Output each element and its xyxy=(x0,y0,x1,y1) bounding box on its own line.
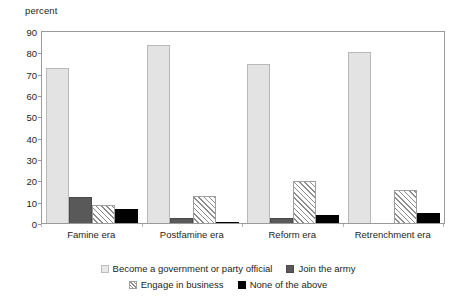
y-axis-tick-label: 30 xyxy=(26,155,37,166)
y-axis-tick-label: 70 xyxy=(26,69,37,80)
bar xyxy=(92,205,115,224)
legend-label-none-of-the-above: None of the above xyxy=(250,278,328,292)
bar xyxy=(193,196,216,224)
bar-chart: percent 9080706050403020100 Become a gov… xyxy=(0,0,456,306)
legend-swatch-icon-none-of-the-above xyxy=(238,281,246,289)
legend-item-engage-business: Engage in business xyxy=(129,278,224,292)
x-axis-tick-mark xyxy=(443,224,444,227)
x-axis-tick-mark xyxy=(343,224,344,227)
legend-swatch-icon-join-army xyxy=(286,265,294,273)
plot-area: 9080706050403020100 xyxy=(41,31,445,224)
bar-group xyxy=(344,32,445,224)
bar-group xyxy=(143,32,244,224)
bar-group xyxy=(243,32,344,224)
bar-group-bars xyxy=(42,32,143,224)
legend-swatch-icon-government-official xyxy=(101,265,109,273)
bar xyxy=(69,197,92,224)
y-axis-tick-label: 80 xyxy=(26,48,37,59)
bar xyxy=(46,68,69,224)
legend-row-2: Engage in business None of the above xyxy=(0,278,456,292)
y-axis-tick-label: 0 xyxy=(32,219,37,230)
legend-item-join-army: Join the army xyxy=(286,262,355,276)
bar xyxy=(348,52,371,224)
bar xyxy=(115,209,138,224)
bar xyxy=(147,45,170,224)
bar-group-bars xyxy=(243,32,344,224)
bar-group-bars xyxy=(143,32,244,224)
legend-label-engage-business: Engage in business xyxy=(141,278,224,292)
legend-swatch-icon-engage-business xyxy=(129,281,137,289)
legend-item-government-official: Become a government or party official xyxy=(101,262,273,276)
x-axis-category-label: Reform era xyxy=(268,229,316,240)
legend-item-none-of-the-above: None of the above xyxy=(238,278,328,292)
x-axis-category-label: Famine era xyxy=(67,229,115,240)
x-axis-category-label: Postfamine era xyxy=(160,229,224,240)
chart-legend: Become a government or party official Jo… xyxy=(0,262,456,294)
y-axis-tick-label: 50 xyxy=(26,112,37,123)
y-axis-tick-label: 20 xyxy=(26,176,37,187)
y-axis-title: percent xyxy=(25,5,57,16)
bar xyxy=(247,64,270,224)
bar xyxy=(293,181,316,224)
legend-label-government-official: Become a government or party official xyxy=(113,262,273,276)
legend-row-1: Become a government or party official Jo… xyxy=(0,262,456,276)
bar-group xyxy=(42,32,143,224)
y-axis-tick-label: 40 xyxy=(26,133,37,144)
bar xyxy=(394,190,417,224)
x-axis-tick-mark xyxy=(242,224,243,227)
x-axis-category-label: Retrenchment era xyxy=(355,229,431,240)
legend-label-join-army: Join the army xyxy=(298,262,355,276)
x-axis-baseline xyxy=(41,223,445,224)
x-axis-tick-mark xyxy=(142,224,143,227)
y-axis-tick-label: 10 xyxy=(26,197,37,208)
y-axis-tick-label: 60 xyxy=(26,91,37,102)
y-axis-tick-label: 90 xyxy=(26,27,37,38)
bar-group-bars xyxy=(344,32,445,224)
x-axis-tick-mark xyxy=(41,224,42,227)
plot-inner: 9080706050403020100 xyxy=(42,32,444,224)
